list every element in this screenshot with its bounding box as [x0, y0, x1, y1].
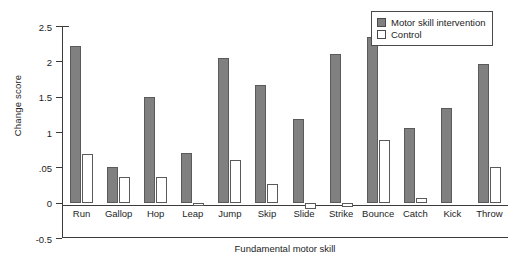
y-tick-label: 2.5 [39, 21, 52, 32]
bar-chart-figure: Change score 2.521.51.050-0.5 RunGallopH… [0, 0, 518, 271]
bar-group: Gallop [100, 26, 137, 238]
legend-swatch-intervention [377, 18, 386, 27]
x-tick-label: Run [63, 208, 100, 219]
bar-control [82, 154, 93, 203]
bar-group: Slide [286, 26, 323, 238]
bar-control [119, 177, 130, 203]
y-tick: 2 [56, 61, 62, 62]
bar-group: Leap [174, 26, 211, 238]
bar-control [379, 140, 390, 202]
x-axis-title: Fundamental motor skill [62, 243, 508, 254]
bar-intervention [367, 37, 378, 203]
bar-control [267, 184, 278, 203]
legend-item-control: Control [377, 29, 486, 40]
bar-control [193, 203, 204, 207]
bar-group: Bounce [360, 26, 397, 238]
y-axis-title: Change score [6, 0, 30, 211]
bar-control [416, 198, 427, 203]
legend-label-control: Control [391, 29, 422, 40]
x-tick-label: Kick [434, 208, 471, 219]
chart-legend: Motor skill intervention Control [371, 11, 493, 46]
y-tick: 0 [56, 203, 62, 204]
plot-area: 2.521.51.050-0.5 RunGallopHopLeapJumpSki… [62, 26, 508, 238]
bar-intervention [218, 58, 229, 203]
x-tick-label: Throw [471, 208, 508, 219]
bar-group: Jump [211, 26, 248, 238]
bar-control [230, 160, 241, 202]
y-tick: 2.5 [56, 26, 62, 27]
bar-series-container: RunGallopHopLeapJumpSkipSlideStrikeBounc… [63, 26, 508, 238]
bar-group: Hop [137, 26, 174, 238]
y-tick-label: 0 [47, 198, 52, 209]
bar-control [490, 167, 501, 202]
bar-group: Run [63, 26, 100, 238]
x-tick-label: Leap [174, 208, 211, 219]
bar-intervention [70, 46, 81, 203]
bar-intervention [293, 119, 304, 202]
bar-intervention [144, 97, 155, 203]
x-tick-label: Skip [248, 208, 285, 219]
legend-swatch-control [377, 30, 386, 39]
x-tick-label: Hop [137, 208, 174, 219]
y-tick: 1.5 [56, 97, 62, 98]
bar-intervention [441, 108, 452, 203]
bar-group: Catch [397, 26, 434, 238]
x-tick-label: Catch [397, 208, 434, 219]
bar-control [156, 177, 167, 202]
y-tick-label: 2 [47, 56, 52, 67]
x-axis-line [62, 237, 508, 238]
legend-item-intervention: Motor skill intervention [377, 17, 486, 28]
bar-intervention [181, 153, 192, 202]
bar-group: Strike [323, 26, 360, 238]
x-tick-label: Gallop [100, 208, 137, 219]
x-tick-label: Strike [323, 208, 360, 219]
bar-control [342, 203, 353, 207]
bar-group: Kick [434, 26, 471, 238]
legend-label-intervention: Motor skill intervention [391, 17, 486, 28]
bar-group: Throw [471, 26, 508, 238]
x-tick-label: Slide [286, 208, 323, 219]
bar-intervention [255, 85, 266, 202]
y-tick-label: .05 [39, 162, 52, 173]
bar-group: Skip [248, 26, 285, 238]
y-tick-label: 1 [47, 127, 52, 138]
y-axis-title-text: Change score [13, 75, 24, 137]
y-tick-label: 1.5 [39, 92, 52, 103]
y-tick: .05 [56, 167, 62, 168]
x-tick-label: Jump [211, 208, 248, 219]
y-tick-label: -0.5 [36, 233, 52, 244]
y-tick: 1 [56, 132, 62, 133]
bar-intervention [107, 167, 118, 203]
y-tick: -0.5 [56, 238, 62, 239]
bar-intervention [404, 128, 415, 202]
bar-intervention [478, 64, 489, 203]
x-tick-label: Bounce [360, 208, 397, 219]
bar-intervention [330, 54, 341, 202]
